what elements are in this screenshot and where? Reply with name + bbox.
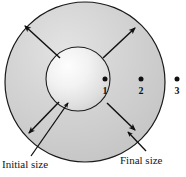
point-2-label: 2	[134, 86, 148, 96]
point-2-dot	[139, 77, 144, 82]
figure-svg	[0, 0, 186, 177]
caption-final-size: Final size	[120, 155, 162, 166]
point-3-label: 3	[170, 86, 184, 96]
inner-circle-initial-size	[46, 47, 110, 111]
figure-container: 1 2 3 Initial size Final size	[0, 0, 186, 177]
point-1-label: 1	[98, 86, 112, 96]
caption-initial-size: Initial size	[2, 159, 48, 170]
point-3-dot	[175, 77, 180, 82]
point-1-dot	[103, 77, 108, 82]
